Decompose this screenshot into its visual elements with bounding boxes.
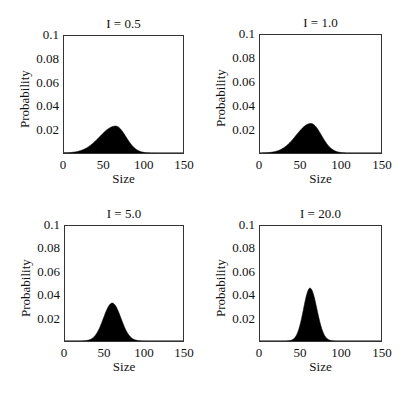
- x-tick-label: 0: [49, 345, 79, 361]
- x-tick-label: 150: [367, 345, 397, 361]
- x-tick-label: 0: [244, 345, 274, 361]
- x-tick-label: 150: [367, 157, 397, 173]
- x-tick-label: 150: [169, 345, 199, 361]
- y-tick-label: 0.08: [215, 50, 255, 66]
- y-tick-label: 0.1: [215, 217, 255, 233]
- x-axis-label: Size: [291, 171, 351, 187]
- plot-area: [63, 35, 184, 154]
- y-axis-label: Probability: [213, 69, 229, 127]
- x-axis-label: Size: [94, 359, 154, 375]
- y-tick-label: 0.08: [19, 51, 59, 67]
- plot-area: [259, 225, 382, 342]
- x-axis-label: Size: [94, 171, 154, 187]
- y-tick-label: 0.1: [19, 27, 59, 43]
- y-tick-label: 0.1: [215, 26, 255, 42]
- y-axis-label: Probability: [18, 259, 34, 317]
- y-tick-label: 0.1: [20, 217, 60, 233]
- x-axis-label: Size: [291, 359, 351, 375]
- probability-distribution-area: [260, 35, 381, 153]
- probability-distribution-area: [64, 36, 183, 153]
- y-tick-label: 0.08: [20, 240, 60, 256]
- y-tick-label: 0.08: [215, 240, 255, 256]
- x-tick-label: 0: [244, 157, 274, 173]
- plot-area: [64, 225, 184, 342]
- y-axis-label: Probability: [213, 259, 229, 317]
- probability-distribution-area: [260, 226, 381, 341]
- subplot-title: I = 0.5: [63, 16, 184, 32]
- probability-distribution-area: [65, 226, 183, 341]
- x-tick-label: 0: [48, 157, 78, 173]
- subplot-title: I = 1.0: [259, 15, 382, 31]
- subplot-title: I = 5.0: [64, 206, 184, 222]
- subplot-title: I = 20.0: [259, 206, 382, 222]
- plot-area: [259, 34, 382, 154]
- x-tick-label: 150: [169, 157, 199, 173]
- y-axis-label: Probability: [17, 70, 33, 128]
